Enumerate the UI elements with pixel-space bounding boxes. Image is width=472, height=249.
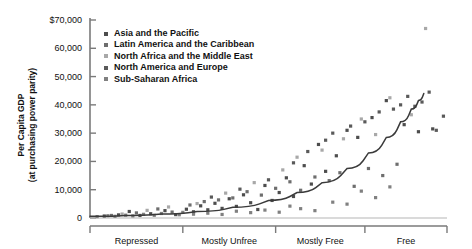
chart-legend: Asia and the PacificLatin America and th…	[104, 28, 254, 85]
series-1	[110, 163, 399, 217]
data-point	[320, 149, 323, 152]
data-point	[210, 195, 213, 198]
data-point	[342, 137, 345, 140]
data-point	[235, 210, 238, 213]
legend-item: North Africa and the Middle East	[104, 51, 254, 62]
data-point	[356, 136, 359, 139]
data-point	[274, 187, 277, 190]
data-point	[331, 132, 334, 135]
legend-label: Sub-Saharan Africa	[114, 74, 197, 85]
data-point	[253, 181, 256, 184]
data-point	[388, 96, 391, 99]
data-point	[420, 100, 423, 103]
legend-swatch-icon	[104, 54, 108, 58]
data-point	[424, 27, 427, 30]
data-point	[281, 168, 284, 171]
data-point	[378, 110, 381, 113]
data-point	[278, 211, 281, 214]
series-4	[96, 185, 392, 218]
data-point	[310, 182, 313, 185]
data-point	[431, 127, 434, 130]
legend-item: North America and Europe	[104, 62, 254, 73]
data-point	[317, 143, 320, 146]
data-point	[295, 156, 298, 159]
data-point	[260, 193, 263, 196]
data-point	[363, 120, 366, 123]
legend-label: North America and Europe	[114, 62, 228, 73]
data-point	[278, 191, 281, 194]
data-point	[263, 184, 266, 187]
data-point	[285, 176, 288, 179]
legend-swatch-icon	[104, 32, 108, 36]
data-point	[203, 200, 206, 203]
data-point	[217, 198, 220, 201]
data-point	[403, 123, 406, 126]
data-point	[353, 185, 356, 188]
data-point	[167, 205, 170, 208]
x-axis-category-label: Free	[397, 236, 416, 246]
data-point	[188, 203, 191, 206]
data-point	[335, 154, 338, 157]
data-point	[196, 202, 199, 205]
data-point	[388, 185, 391, 188]
data-point	[442, 115, 445, 118]
legend-item: Sub-Saharan Africa	[104, 74, 254, 85]
legend-label: Asia and the Pacific	[114, 28, 199, 39]
x-axis-category-label: Mostly Free	[297, 236, 344, 246]
data-point	[206, 212, 209, 215]
data-point	[267, 178, 270, 181]
data-point	[435, 129, 438, 132]
legend-label: North Africa and the Middle East	[114, 51, 253, 62]
data-point	[374, 133, 377, 136]
data-point	[331, 201, 334, 204]
data-point	[256, 208, 259, 211]
data-point	[228, 197, 231, 200]
data-point	[360, 190, 363, 193]
data-point	[135, 211, 138, 214]
data-point	[374, 196, 377, 199]
legend-item: Latin America and the Caribbean	[104, 39, 254, 50]
data-point	[392, 108, 395, 111]
data-point	[242, 193, 245, 196]
data-point	[313, 209, 316, 212]
data-point	[292, 161, 295, 164]
data-point	[324, 170, 327, 173]
data-point	[224, 192, 227, 195]
data-point	[192, 213, 195, 216]
data-point	[313, 175, 316, 178]
legend-swatch-icon	[104, 66, 108, 70]
data-point	[349, 124, 352, 127]
data-point	[395, 163, 398, 166]
data-point	[220, 213, 223, 216]
legend-swatch-icon	[104, 43, 108, 47]
data-point	[185, 208, 188, 211]
data-point	[128, 210, 131, 213]
data-point	[338, 171, 341, 174]
legend-label: Latin America and the Caribbean	[114, 39, 254, 50]
data-point	[231, 196, 234, 199]
data-point	[199, 204, 202, 207]
data-point	[345, 203, 348, 206]
chart-figure: Per Capita GDP (at purchasing power pari…	[0, 0, 472, 249]
data-point	[238, 188, 241, 191]
data-point	[367, 167, 370, 170]
data-point	[299, 207, 302, 210]
data-point	[370, 116, 373, 119]
data-point	[146, 209, 149, 212]
data-point	[306, 150, 309, 153]
data-point	[345, 129, 348, 132]
data-point	[428, 91, 431, 94]
data-point	[385, 99, 388, 102]
legend-item: Asia and the Pacific	[104, 28, 254, 39]
data-point	[381, 174, 384, 177]
legend-swatch-icon	[104, 77, 108, 81]
data-point	[406, 95, 409, 98]
data-point	[245, 190, 248, 193]
data-point	[303, 164, 306, 167]
data-point	[417, 130, 420, 133]
trend-line	[90, 94, 424, 217]
data-point	[156, 207, 159, 210]
data-point	[163, 209, 166, 212]
data-point	[263, 208, 266, 211]
data-point	[249, 211, 252, 214]
